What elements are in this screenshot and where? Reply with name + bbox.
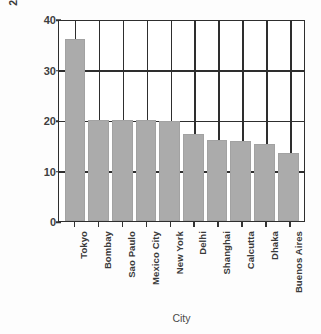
y-tick-label-40: 40: [34, 14, 56, 26]
bar-calcutta[interactable]: [230, 141, 251, 221]
x-tick-mark: [122, 222, 124, 227]
bar-dhaka[interactable]: [254, 144, 275, 221]
y-axis-title: 2010 Population in Millions: [2, 0, 24, 40]
y-tick-label-0: 0: [34, 216, 56, 228]
x-tick-label-calcutta: Calcutta: [245, 231, 256, 321]
x-tick-label-mexico-city: Mexico City: [150, 231, 161, 321]
x-tick-label-dhaka: Dhaka: [269, 231, 280, 321]
bar-buenos-aires[interactable]: [278, 153, 299, 221]
bar-series: [59, 21, 304, 221]
bar-shanghai[interactable]: [207, 140, 228, 221]
x-tick-mark: [289, 222, 291, 227]
bar-mexico-city[interactable]: [136, 120, 157, 221]
x-tick-mark: [170, 222, 172, 227]
bar-slot: [134, 21, 158, 221]
x-tick-label-new-york: New York: [174, 231, 185, 321]
x-tick-mark: [193, 222, 195, 227]
bar-tokyo[interactable]: [65, 39, 86, 221]
y-tick-label-20: 20: [34, 115, 56, 127]
x-tick-label-shanghai: Shanghai: [221, 231, 232, 321]
bar-bombay[interactable]: [88, 120, 109, 221]
x-axis-title: City: [58, 312, 305, 324]
x-tick-label-bombay: Bombay: [102, 231, 113, 321]
bar-new-york[interactable]: [159, 121, 180, 221]
bar-slot: [276, 21, 300, 221]
bar-slot: [110, 21, 134, 221]
x-tick-label-delhi: Delhi: [197, 231, 208, 321]
bar-slot: [158, 21, 182, 221]
bar-slot: [229, 21, 253, 221]
x-tick-mark: [265, 222, 267, 227]
x-tick-label-sao-paulo: Sao Paulo: [126, 231, 137, 321]
y-tick-label-30: 30: [34, 65, 56, 77]
plot-area: [58, 20, 305, 222]
x-tick-label-tokyo: Tokyo: [78, 231, 89, 321]
x-tick-label-buenos-aires: Buenos Aires: [293, 231, 304, 321]
y-tick-label-10: 10: [34, 166, 56, 178]
bar-slot: [253, 21, 277, 221]
bar-slot: [182, 21, 206, 221]
x-tick-mark: [217, 222, 219, 227]
bar-slot: [205, 21, 229, 221]
y-axis-ticks: 40 30 20 10 0: [28, 0, 56, 334]
x-tick-mark: [146, 222, 148, 227]
bar-slot: [63, 21, 87, 221]
x-tick-mark: [98, 222, 100, 227]
bar-sao-paulo[interactable]: [112, 120, 133, 221]
bar-chart-figure: 2010 Population in Millions 40 30 20 10 …: [0, 0, 321, 334]
x-tick-mark: [241, 222, 243, 227]
x-tick-mark: [74, 222, 76, 227]
bar-delhi[interactable]: [183, 134, 204, 221]
bar-slot: [87, 21, 111, 221]
